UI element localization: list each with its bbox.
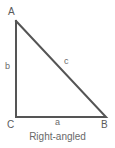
triangle-outline <box>16 21 106 117</box>
vertex-label-a: A <box>8 7 15 17</box>
side-label-b: b <box>5 62 10 71</box>
vertex-label-c: C <box>7 120 14 130</box>
side-label-a: a <box>55 118 60 127</box>
right-angled-triangle-figure: A B C a b c Right-angled <box>0 0 115 148</box>
vertex-label-b: B <box>101 120 108 130</box>
side-label-c: c <box>64 57 69 66</box>
figure-caption: Right-angled <box>0 131 115 143</box>
